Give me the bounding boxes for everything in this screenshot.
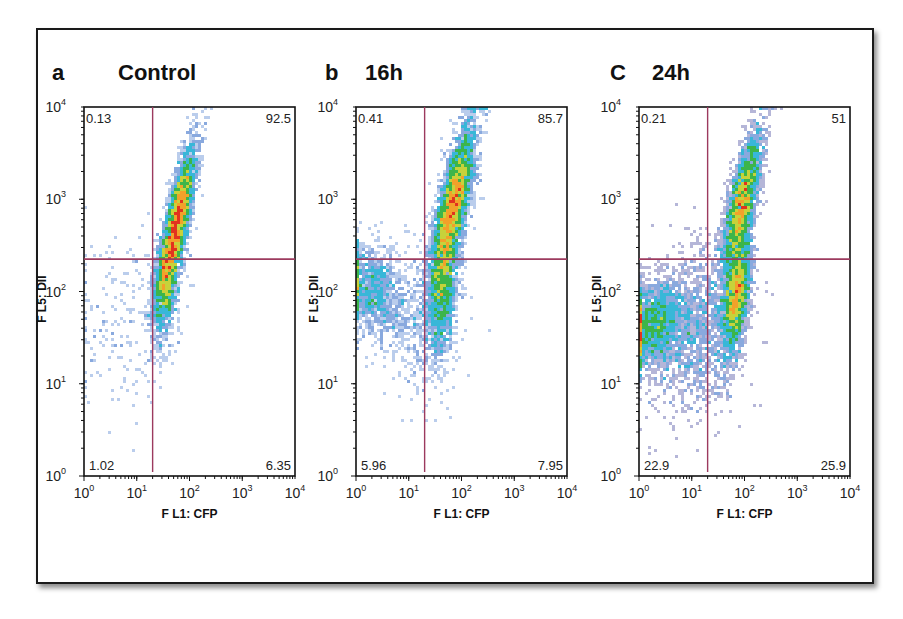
density-point xyxy=(168,263,171,266)
density-point xyxy=(666,305,669,308)
density-point xyxy=(413,320,416,323)
density-point xyxy=(690,323,693,326)
density-point xyxy=(183,161,186,164)
density-point xyxy=(726,359,729,362)
density-point xyxy=(428,356,431,359)
density-point xyxy=(663,314,666,317)
density-point xyxy=(744,158,747,161)
density-point xyxy=(419,356,422,359)
density-point xyxy=(672,311,675,314)
density-point xyxy=(666,326,669,329)
density-point xyxy=(672,383,675,386)
density-point xyxy=(404,377,407,380)
density-point xyxy=(690,350,693,353)
density-point xyxy=(443,224,446,227)
density-point xyxy=(654,290,657,293)
density-point xyxy=(747,140,750,143)
density-point xyxy=(738,329,741,332)
density-point xyxy=(467,182,470,185)
density-point xyxy=(461,206,464,209)
density-point xyxy=(464,131,467,134)
density-point xyxy=(171,275,174,278)
density-point xyxy=(669,344,672,347)
density-point xyxy=(687,368,690,371)
density-point xyxy=(174,308,177,311)
density-point xyxy=(434,353,437,356)
density-point xyxy=(473,128,476,131)
density-point xyxy=(750,179,753,182)
density-point xyxy=(428,284,431,287)
density-point xyxy=(672,344,675,347)
density-point xyxy=(765,131,768,134)
density-point xyxy=(735,200,738,203)
density-point xyxy=(672,425,675,428)
density-point xyxy=(162,278,165,281)
density-point xyxy=(174,269,177,272)
density-point xyxy=(717,431,720,434)
density-point xyxy=(419,314,422,317)
density-point xyxy=(675,293,678,296)
density-point xyxy=(156,278,159,281)
density-point xyxy=(183,224,186,227)
density-point xyxy=(717,335,720,338)
density-point xyxy=(195,140,198,143)
density-point xyxy=(183,239,186,242)
density-point xyxy=(449,278,452,281)
density-point xyxy=(750,149,753,152)
density-point xyxy=(180,176,183,179)
density-point xyxy=(741,161,744,164)
density-point xyxy=(162,335,165,338)
density-point xyxy=(174,233,177,236)
density-point xyxy=(750,188,753,191)
density-point xyxy=(654,353,657,356)
density-point xyxy=(180,167,183,170)
density-point xyxy=(648,326,651,329)
density-point xyxy=(464,179,467,182)
density-point xyxy=(416,281,419,284)
density-point xyxy=(750,203,753,206)
density-point xyxy=(183,164,186,167)
density-point xyxy=(735,308,738,311)
density-point xyxy=(666,329,669,332)
density-point xyxy=(162,311,165,314)
density-point xyxy=(189,212,192,215)
density-point xyxy=(729,254,732,257)
density-point xyxy=(431,296,434,299)
density-point xyxy=(717,260,720,263)
density-point xyxy=(741,365,744,368)
density-point xyxy=(464,242,467,245)
density-point xyxy=(753,140,756,143)
density-point xyxy=(473,131,476,134)
density-point xyxy=(443,287,446,290)
density-point xyxy=(165,335,168,338)
density-point xyxy=(681,338,684,341)
density-point xyxy=(389,296,392,299)
density-point xyxy=(753,194,756,197)
density-point xyxy=(407,344,410,347)
density-point xyxy=(416,311,419,314)
density-point xyxy=(744,239,747,242)
density-point xyxy=(177,215,180,218)
density-point xyxy=(380,311,383,314)
density-point xyxy=(195,170,198,173)
density-point xyxy=(171,185,174,188)
density-point xyxy=(663,377,666,380)
density-point xyxy=(455,140,458,143)
density-point xyxy=(651,347,654,350)
density-point xyxy=(455,227,458,230)
density-point xyxy=(428,254,431,257)
density-point xyxy=(368,266,371,269)
y-tick-label: 100 xyxy=(317,466,338,484)
density-point xyxy=(738,140,741,143)
density-point xyxy=(672,287,675,290)
density-point xyxy=(413,344,416,347)
density-point xyxy=(165,308,168,311)
density-point xyxy=(189,221,192,224)
density-point xyxy=(735,353,738,356)
density-point xyxy=(425,269,428,272)
density-point xyxy=(165,266,168,269)
density-point xyxy=(186,158,189,161)
density-point xyxy=(473,134,476,137)
density-point xyxy=(455,296,458,299)
density-point xyxy=(180,179,183,182)
